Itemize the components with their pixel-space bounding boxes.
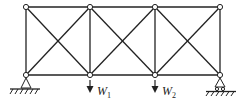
load-label-w2: W2 [162, 84, 176, 100]
load-arrow-icon [152, 80, 159, 93]
roller-support-icon [206, 78, 236, 96]
pin-support-icon [10, 78, 40, 94]
truss-diagram [0, 0, 245, 107]
load-label-w1: W1 [97, 84, 111, 100]
load-arrow-icon [87, 80, 94, 93]
node [23, 4, 28, 9]
node [87, 72, 92, 77]
node [152, 4, 157, 9]
node [23, 72, 28, 77]
node [217, 4, 222, 9]
node [152, 72, 157, 77]
node [217, 72, 222, 77]
node [87, 4, 92, 9]
